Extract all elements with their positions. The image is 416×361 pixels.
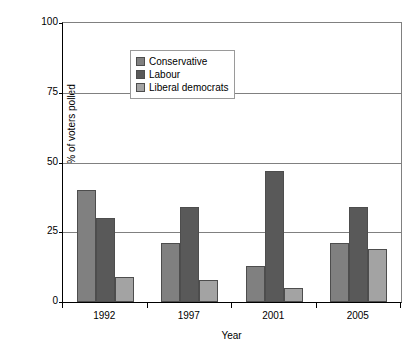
bar-2001-liberal-democrats: [284, 288, 303, 302]
bar-1997-labour: [180, 207, 199, 302]
legend-label: Labour: [149, 69, 180, 80]
legend-item: Liberal democrats: [136, 81, 228, 94]
legend-swatch-icon: [136, 57, 145, 66]
x-tick-label: 2005: [347, 310, 369, 322]
bar-2005-conservative: [330, 243, 349, 302]
y-tick-label: 0: [32, 296, 58, 306]
legend-item: Conservative: [136, 55, 228, 68]
y-axis-tick-labels: 0255075100: [30, 0, 58, 361]
x-tick-mark: [62, 302, 63, 308]
legend-swatch-icon: [136, 70, 145, 79]
bar-1992-conservative: [77, 190, 96, 302]
x-tick-mark: [400, 302, 401, 308]
bar-1997-conservative: [161, 243, 180, 302]
x-tick-label: 1992: [93, 310, 115, 322]
bar-1997-liberal-democrats: [199, 280, 218, 302]
x-tick-mark: [231, 302, 232, 308]
x-tick-mark: [316, 302, 317, 308]
y-tick-label: 25: [32, 226, 58, 236]
legend-item: Labour: [136, 68, 228, 81]
x-axis-title: Year: [62, 330, 401, 342]
bar-chart: % of voters polled 0255075100 Conservati…: [0, 0, 416, 361]
x-axis-tick-marks: [62, 302, 401, 310]
x-tick-label: 2001: [262, 310, 284, 322]
x-tick-label: 1997: [178, 310, 200, 322]
y-tick-label: 100: [32, 17, 58, 27]
y-tick-label: 75: [32, 87, 58, 97]
legend-label: Conservative: [149, 56, 207, 67]
y-tick-label: 50: [32, 157, 58, 167]
bar-2001-conservative: [246, 266, 265, 302]
legend-label: Liberal democrats: [149, 82, 228, 93]
chart-legend: ConservativeLabourLiberal democrats: [130, 50, 235, 99]
bar-2005-liberal-democrats: [368, 249, 387, 302]
bar-1992-liberal-democrats: [115, 277, 134, 302]
x-tick-mark: [147, 302, 148, 308]
plot-area: ConservativeLabourLiberal democrats: [62, 22, 402, 303]
x-axis-tick-labels: 1992199720012005: [62, 310, 401, 324]
bar-2001-labour: [265, 171, 284, 302]
bar-2005-labour: [349, 207, 368, 302]
legend-swatch-icon: [136, 83, 145, 92]
bar-1992-labour: [96, 218, 115, 302]
